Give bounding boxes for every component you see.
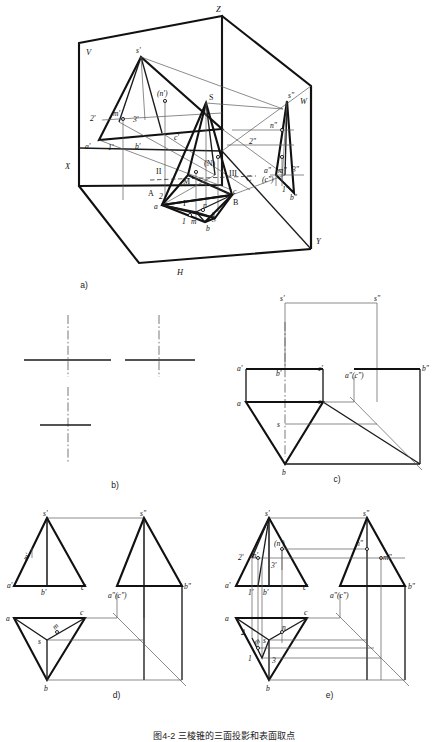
label-e-m: m [252,636,262,647]
label-axis-z: Z [216,5,221,14]
label-m-prime-a: m' [113,109,120,118]
label-s-dq-a: s" [288,91,295,100]
label-a-dq-a: a" [264,166,272,175]
label-e-2-prime: 2' [238,553,244,562]
c-w-projection [354,369,420,464]
d-h-projection [14,613,186,686]
c-h-projection [246,397,422,470]
label-2-prime-a: 2' [90,114,96,123]
label-e-b-dq: b" [408,582,416,591]
label-a-prime-a: a' [85,142,91,151]
label-c-b-prime: b' [276,369,282,378]
label-e-c-prime: c' [303,583,308,592]
label-e-c: c [304,608,308,617]
label-c-prime-a: c' [174,133,179,142]
label-1-prime-a: 1' [108,143,114,152]
label-d-s: s [38,637,41,646]
label-B-a: B [233,198,238,207]
label-axis-x: X [64,162,71,171]
label-c-ac-dq: a"(c") [345,371,364,380]
figure-a: Z V W X Y H s' 2' m' 3' (n') [0,0,448,290]
label-plane-h: H [176,268,184,277]
label-II-a: II [156,167,162,176]
label-d-b-prime: b' [41,588,47,597]
label-c-dq-a: (c") [262,175,274,184]
label-d-a-prime: a' [7,581,13,590]
label-c-a: a [237,399,241,408]
label-n-dq-a: n" [270,121,278,130]
figure-e-caption: e) [222,690,437,700]
label-b-h-a: b [206,224,210,233]
c-v-projection [246,369,323,402]
label-axis-y: Y [316,237,322,246]
label-A-a: A [148,189,154,198]
label-d-s-prime: s' [43,509,48,518]
label-b-prime-a: b' [135,142,141,151]
label-d-ac-dq: a"(c") [108,591,127,600]
label-e-s: s [263,636,266,645]
label-e-a: a [225,614,229,623]
label-e-n-prime: (n') [274,539,285,548]
center-cross-3 [40,387,91,463]
label-e-m-dq: m" [383,553,392,562]
label-e-n-dq: n" [356,539,364,548]
label-M-a: M [183,177,190,186]
center-cross-1 [24,315,111,377]
label-e-ac-dq: a"(c") [330,591,349,600]
label-m-dq-a: m" [278,166,287,175]
label-m-h-a: m [191,217,197,226]
label-c-s: s [277,420,280,429]
figure-d-caption: d) [14,690,219,700]
label-N-a: (N) [204,159,215,168]
label-I-a: I [183,199,186,208]
label-3-prime-a: 3' [132,115,139,124]
label-e-1: 1 [248,654,252,663]
label-plane-v: V [86,48,92,57]
label-c-s-prime: s' [280,294,285,303]
figure-d: s' m' a' b' c' s" a"(c") b" a c s m [14,508,219,713]
label-e-b-prime: b' [263,588,269,597]
label-e-3-prime: 3' [270,561,277,570]
label-a-h-a: a [154,202,158,211]
label-c-s-dq: s" [374,294,381,303]
label-e-m-prime: m' [251,551,258,560]
label-d-s-dq: s" [140,509,147,518]
point-e-m-h [257,647,260,650]
label-n-h-a: n [203,201,207,210]
label-d-c: c [80,608,84,617]
label-s-prime-a: s' [136,46,141,55]
label-e-s-dq: s" [363,509,370,518]
center-cross-2 [125,315,195,377]
figure-c-caption: c) [232,474,442,484]
label-e-a-prime: a' [225,581,231,590]
label-d-m: m [50,621,60,632]
label-c-c-prime: c' [318,364,323,373]
figure-title: 图4-2 三棱锥的三面投影和表面取点 [0,729,448,742]
label-c-b-dq: b" [422,364,430,373]
figure-b: b) [15,315,215,500]
figure-e: s' 2' m' (n') 3' a' 1' b' c' s" n" m" a"… [222,508,437,713]
label-e-2: 2 [241,628,245,637]
label-b-dq-a: b" [290,193,298,202]
label-d-a: a [6,614,10,623]
label-C-a: C [246,174,251,183]
point-e-n-dq [366,548,369,551]
label-e-n: n [282,623,286,632]
label-e-3: 3 [271,656,276,665]
d-w-projection [117,518,182,680]
label-1-dq-a: 1" [282,185,290,194]
label-d-c-prime: c' [81,583,86,592]
v-projection [99,57,285,205]
label-d-b-dq: b" [184,582,192,591]
label-c-h-a: c [233,187,237,196]
label-3-h-a: 3 [211,215,216,224]
label-plane-w: W [300,97,308,106]
figure-a-caption: a) [0,280,308,290]
label-III-a: III [229,169,237,178]
label-c-a-prime: a' [237,364,243,373]
label-2-dq-a: 2" [249,137,257,146]
label-S-a: S [209,93,213,102]
label-n-prime-a: (n') [157,89,168,98]
label-e-1-prime: 1' [248,588,254,597]
label-3-dq-a: 3" [291,165,300,174]
